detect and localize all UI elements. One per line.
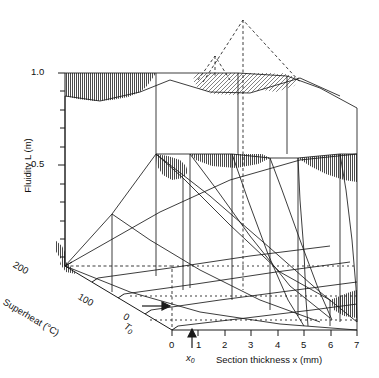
x-tick-label-3: 3 <box>248 339 253 350</box>
plot-canvas <box>0 0 379 378</box>
x-axis-title: Section thickness x (mm) <box>216 354 322 365</box>
x-tick-label-0: 0 <box>169 339 174 350</box>
y-axis-title-unit: (m) <box>22 138 33 152</box>
x0-label: x0 <box>186 352 195 364</box>
hatched-curtains <box>55 73 357 318</box>
y-tick-label-0.5: 0.5 <box>31 158 44 169</box>
x0-label-subscript: 0 <box>191 357 195 364</box>
t0-arrow <box>142 302 170 310</box>
x0-arrow <box>188 329 196 348</box>
axis-lines <box>65 73 357 330</box>
x-axis-title-symbol: x <box>293 354 298 365</box>
x-tick-label-7: 7 <box>354 339 359 350</box>
y-axis-title-text: Fluidity <box>22 163 33 193</box>
x-tick-label-6: 6 <box>328 339 333 350</box>
axis-ticks <box>58 73 357 336</box>
x-tick-label-5: 5 <box>301 339 306 350</box>
y-axis-title-symbol: L <box>22 155 33 160</box>
x-axis-title-unit: (mm) <box>300 354 322 365</box>
x-tick-label-2: 2 <box>222 339 227 350</box>
y-tick-label-1.0: 1.0 <box>31 66 44 77</box>
fluidity-surface-plot: 1.0 0.5 Fluidity L (m) 0 1 2 3 4 5 6 7 S… <box>0 0 379 378</box>
x-tick-label-4: 4 <box>275 339 280 350</box>
x-axis-title-text: Section thickness <box>216 354 290 365</box>
x-tick-label-1: 1 <box>196 339 201 350</box>
surface-wireframe <box>65 73 357 330</box>
y-axis-title: Fluidity L (m) <box>22 116 33 216</box>
